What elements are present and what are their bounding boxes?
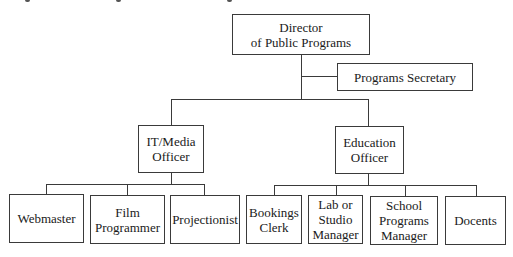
node-docents: Docents <box>445 196 506 245</box>
connector-bookings-clerk-drop <box>274 185 275 195</box>
connector-level2-bus <box>171 99 369 100</box>
node-webmaster: Webmaster <box>9 194 84 243</box>
connector-projectionist-drop <box>204 184 205 195</box>
caption-fragment <box>25 0 30 2</box>
connector-it-media-drop <box>171 99 172 125</box>
caption-fragment <box>227 0 232 2</box>
connector-film-programmer-drop <box>127 184 128 195</box>
node-programs-secretary: Programs Secretary <box>337 63 473 91</box>
connector-webmaster-drop <box>46 184 47 194</box>
node-film-programmer: Film Programmer <box>90 195 165 244</box>
connector-education-stem <box>368 173 369 185</box>
connector-docents-drop <box>476 185 477 196</box>
connector-education-drop <box>368 99 369 126</box>
connector-lab-studio-drop <box>336 185 337 195</box>
node-education-officer: Education Officer <box>335 126 404 174</box>
node-director: Director of Public Programs <box>232 14 370 55</box>
connector-secretary <box>301 76 337 77</box>
node-school-programs-manager: School Programs Manager <box>370 196 438 245</box>
node-projectionist: Projectionist <box>170 195 240 244</box>
connector-school-programs-drop <box>405 185 406 196</box>
node-bookings-clerk: Bookings Clerk <box>246 195 302 244</box>
node-lab-studio-manager: Lab or Studio Manager <box>308 195 363 244</box>
connector-it-media-bus <box>46 184 205 185</box>
caption-fragment <box>116 0 121 2</box>
node-it-media-officer: IT/Media Officer <box>138 125 204 173</box>
org-chart: Director of Public Programs Programs Sec… <box>0 0 513 257</box>
connector-education-bus <box>274 185 477 186</box>
connector-it-media-stem <box>171 172 172 184</box>
connector-director-stem <box>301 54 302 100</box>
